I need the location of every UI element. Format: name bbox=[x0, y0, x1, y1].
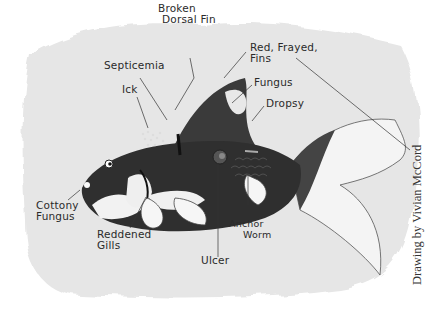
fish-illustration bbox=[0, 0, 442, 318]
label-line: Fungus bbox=[36, 211, 79, 222]
label-line: Dorsal Fin bbox=[158, 14, 216, 25]
label-line: Septicemia bbox=[104, 60, 165, 71]
label-line: Fungus bbox=[254, 77, 293, 88]
label-line: Anchor bbox=[229, 218, 271, 229]
label-broken-dorsal-fin: Broken Dorsal Fin bbox=[158, 3, 216, 25]
label-cottony-fungus: Cottony Fungus bbox=[36, 200, 79, 222]
fish-disease-diagram: Broken Dorsal Fin Red, Frayed, Fins Sept… bbox=[0, 0, 442, 318]
label-line: Ick bbox=[122, 84, 138, 95]
label-line: Worm bbox=[229, 229, 271, 240]
illustration-credit: Drawing by Vivian McCord bbox=[410, 145, 425, 285]
label-ulcer: Ulcer bbox=[201, 255, 229, 266]
label-dropsy: Dropsy bbox=[266, 98, 304, 109]
label-line: Dropsy bbox=[266, 98, 304, 109]
label-anchor-worm: Anchor Worm bbox=[229, 218, 271, 240]
label-line: Fins bbox=[250, 53, 318, 64]
label-septicemia: Septicemia bbox=[104, 60, 165, 71]
label-line: Ulcer bbox=[201, 255, 229, 266]
label-red-frayed-fins: Red, Frayed, Fins bbox=[250, 42, 318, 64]
label-line: Gills bbox=[97, 240, 151, 251]
label-ick: Ick bbox=[122, 84, 138, 95]
label-fungus: Fungus bbox=[254, 77, 293, 88]
label-reddened-gills: Reddened Gills bbox=[97, 229, 151, 251]
